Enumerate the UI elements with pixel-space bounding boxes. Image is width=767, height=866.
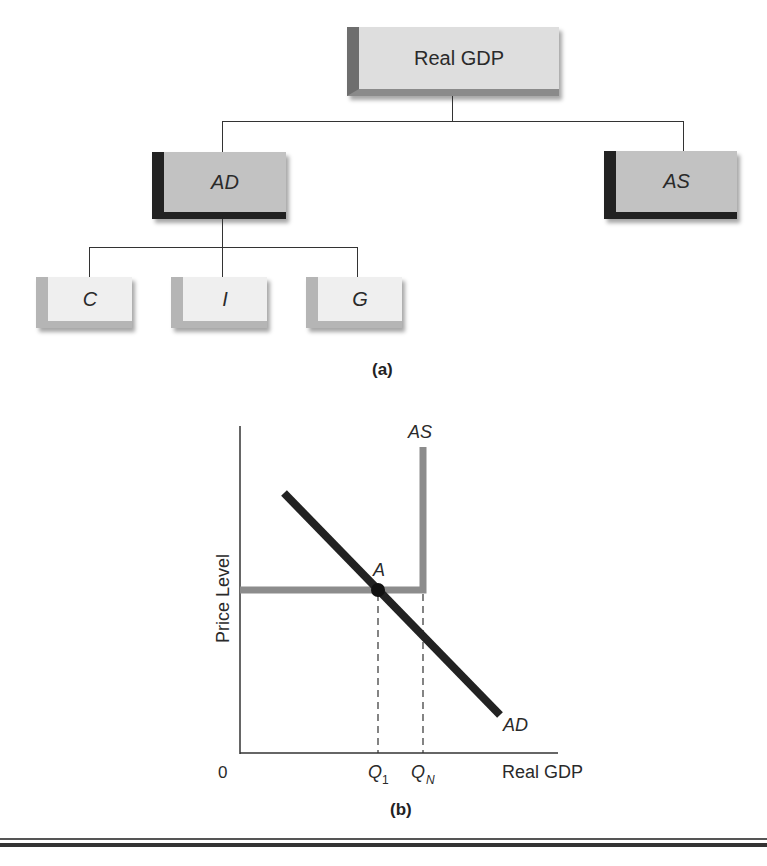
- origin-label: 0: [218, 763, 227, 782]
- bottom-rule-thin: [0, 838, 767, 840]
- point-a: [371, 583, 385, 597]
- as-curve-label: AS: [407, 422, 432, 442]
- q1-tick-label: Q: [368, 762, 382, 782]
- y-axis-label: Price Level: [213, 554, 233, 643]
- qn-tick-subscript: N: [426, 773, 435, 787]
- bottom-rule-thick: [0, 843, 767, 847]
- x-axis-label: Real GDP: [502, 762, 583, 782]
- ad-as-chart: AS AD A Price Level 0 Real GDP Q 1 Q N: [0, 0, 767, 866]
- qn-tick-label: Q: [411, 762, 425, 782]
- ad-curve: [284, 493, 500, 715]
- caption-b: (b): [390, 800, 412, 820]
- q1-tick-subscript: 1: [382, 773, 389, 787]
- as-curve: [240, 447, 423, 590]
- point-a-label: A: [372, 560, 385, 580]
- ad-curve-label: AD: [502, 715, 528, 735]
